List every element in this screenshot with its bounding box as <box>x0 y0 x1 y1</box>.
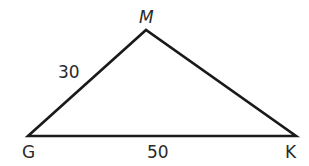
vertex-label-k: K <box>285 142 297 162</box>
triangle-diagram: M 30 G 50 K <box>0 0 309 166</box>
vertex-label-m: M <box>139 7 154 27</box>
vertex-label-g: G <box>22 142 35 162</box>
side-label-gm: 30 <box>58 62 80 82</box>
triangle-gmk <box>28 30 296 136</box>
side-label-gk: 50 <box>147 142 169 162</box>
